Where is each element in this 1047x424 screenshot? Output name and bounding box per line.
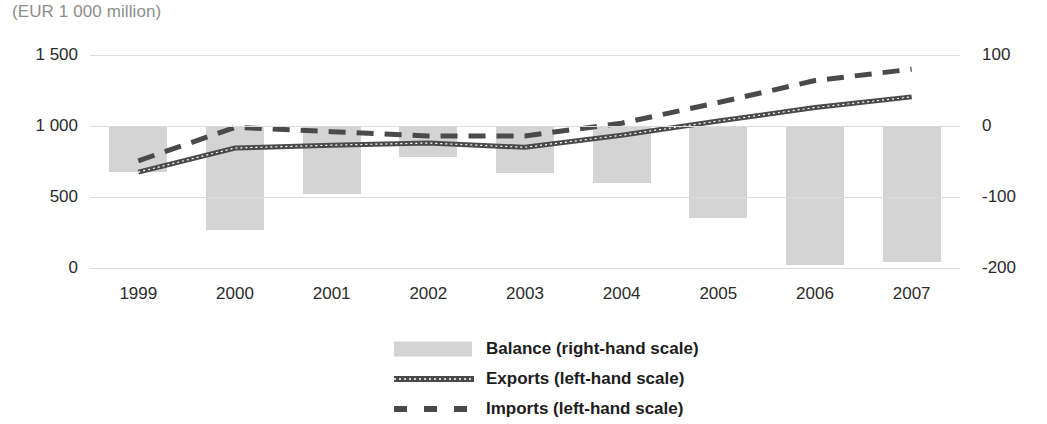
legend-label-imports: Imports (left-hand scale) xyxy=(486,399,683,419)
legend-label-exports: Exports (left-hand scale) xyxy=(486,369,684,389)
x-axis-tick-label: 2003 xyxy=(477,285,574,302)
gridline xyxy=(90,268,960,269)
y-axis-left-tick-label: 1 500 xyxy=(0,46,78,63)
chart-legend: Balance (right-hand scale) Exports (left… xyxy=(0,334,1047,424)
exports-line-swatch-icon xyxy=(394,375,474,384)
legend-label-balance: Balance (right-hand scale) xyxy=(486,339,699,359)
gridline xyxy=(90,126,960,127)
x-axis-tick-label: 1999 xyxy=(90,285,187,302)
chart-container: (EUR 1 000 million) 05001 0001 500-200-1… xyxy=(0,0,1047,424)
legend-item-exports: Exports (left-hand scale) xyxy=(0,364,1047,394)
y-axis-right-tick-label: -100 xyxy=(982,188,1047,205)
x-axis-tick-label: 2002 xyxy=(380,285,477,302)
plot-area: 05001 0001 500-200-100010019992000200120… xyxy=(90,55,960,268)
series-layer xyxy=(90,55,960,268)
x-axis-tick-label: 2005 xyxy=(670,285,767,302)
y-axis-right-tick-label: 0 xyxy=(982,117,1047,134)
y-axis-left-tick-label: 1 000 xyxy=(0,117,78,134)
y-axis-right-tick-label: -200 xyxy=(982,259,1047,276)
legend-item-balance: Balance (right-hand scale) xyxy=(0,334,1047,364)
x-axis-tick-label: 2007 xyxy=(863,285,960,302)
gridline xyxy=(90,197,960,198)
x-axis-tick-label: 2006 xyxy=(767,285,864,302)
imports-line-swatch-icon xyxy=(394,405,474,414)
x-axis-tick-label: 2001 xyxy=(283,285,380,302)
y-axis-right-tick-label: 100 xyxy=(982,46,1047,63)
gridline xyxy=(90,55,960,56)
x-axis-tick-label: 2004 xyxy=(573,285,670,302)
balance-bar-swatch-icon xyxy=(394,342,472,357)
legend-item-imports: Imports (left-hand scale) xyxy=(0,394,1047,424)
x-axis-tick-label: 2000 xyxy=(187,285,284,302)
y-axis-left-tick-label: 0 xyxy=(0,259,78,276)
y-axis-left-tick-label: 500 xyxy=(0,188,78,205)
chart-unit-note: (EUR 1 000 million) xyxy=(12,2,161,22)
